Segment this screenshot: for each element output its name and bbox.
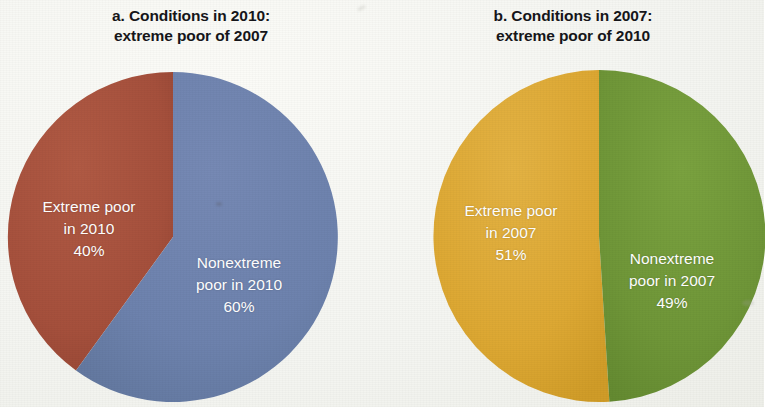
- pie-a-svg: [8, 72, 338, 402]
- panel-b-title: b. Conditions in 2007: extreme poor of 2…: [382, 6, 764, 47]
- pie-chart-b: [433, 70, 765, 402]
- panel-a-title-line1: a. Conditions in 2010:: [0, 6, 382, 26]
- panel-b-title-line1: b. Conditions in 2007:: [382, 6, 764, 26]
- panel-b-title-line2: extreme poor of 2010: [382, 26, 764, 46]
- panel-a: a. Conditions in 2010: extreme poor of 2…: [0, 0, 382, 407]
- pie-chart-a: [8, 72, 338, 402]
- pie-b-slice-extreme-poor[interactable]: [433, 70, 609, 402]
- panel-a-title-line2: extreme poor of 2007: [0, 26, 382, 46]
- pie-b-slice-nonextreme-poor[interactable]: [599, 70, 765, 402]
- panel-a-title: a. Conditions in 2010: extreme poor of 2…: [0, 6, 382, 47]
- pie-b-svg: [433, 70, 765, 402]
